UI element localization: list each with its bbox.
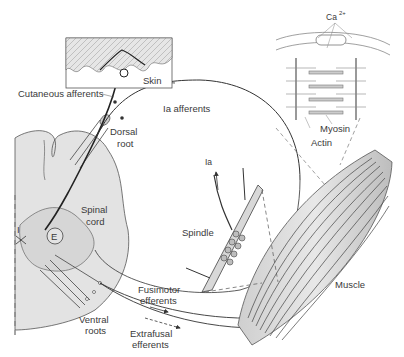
label-muscle: Muscle bbox=[335, 279, 365, 290]
reflex-diagram: E I Skin bbox=[0, 0, 404, 357]
label-skin: Skin bbox=[143, 75, 161, 86]
label-calcium-charge: 2+ bbox=[339, 10, 346, 16]
muscle bbox=[238, 150, 392, 345]
label-dorsal-root-1: Dorsal bbox=[110, 126, 137, 137]
label-spinal-cord-1: Spinal bbox=[81, 204, 107, 215]
label-fusimotor-2: efferents bbox=[140, 295, 177, 306]
label-fusimotor-1: Fusimotor bbox=[138, 284, 180, 295]
label-calcium: Ca bbox=[326, 12, 337, 22]
label-actin: Actin bbox=[311, 137, 332, 148]
label-spindle: Spindle bbox=[182, 227, 214, 238]
label-extrafusal-1: Extrafusal bbox=[130, 328, 172, 339]
label-dorsal-root-2: root bbox=[117, 138, 134, 149]
label-spinal-cord-2: cord bbox=[86, 216, 104, 227]
label-ventral-roots-1: Ventral bbox=[79, 314, 109, 325]
label-ventral-roots-2: roots bbox=[85, 325, 106, 336]
label-ia: Ia bbox=[205, 157, 212, 167]
spinal-cord bbox=[15, 131, 129, 335]
label-extrafusal-2: efferents bbox=[132, 339, 169, 350]
label-ia-afferents: Ia afferents bbox=[163, 103, 211, 114]
label-interneuron-i: I bbox=[17, 224, 20, 235]
sarcoplasmic-reticulum bbox=[316, 35, 346, 45]
label-interneuron-e: E bbox=[51, 231, 57, 242]
label-myosin: Myosin bbox=[320, 123, 350, 134]
label-cutaneous-afferents: Cutaneous afferents bbox=[18, 88, 104, 99]
